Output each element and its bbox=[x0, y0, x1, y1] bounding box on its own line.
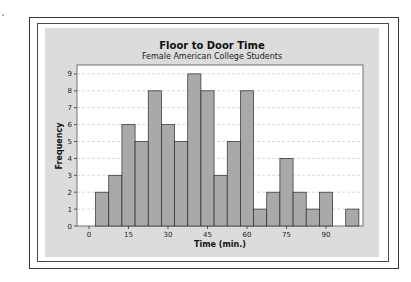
y-tick-label: 2 bbox=[68, 189, 72, 197]
x-tick-label: 45 bbox=[203, 231, 212, 239]
histogram-bar bbox=[161, 125, 174, 226]
histogram-bar bbox=[346, 209, 359, 226]
y-tick-label: 0 bbox=[68, 223, 72, 231]
y-axis-label: Frequency bbox=[55, 122, 64, 170]
x-axis-label: Time (min.) bbox=[194, 240, 246, 249]
x-tick-label: 15 bbox=[124, 231, 133, 239]
y-axis: 0123456789 bbox=[68, 70, 77, 230]
x-tick-label: 90 bbox=[322, 231, 331, 239]
histogram-bar bbox=[148, 91, 161, 226]
histogram-bar bbox=[293, 192, 306, 226]
histogram-bar bbox=[201, 91, 214, 226]
histogram-bar bbox=[188, 74, 201, 226]
histogram-bar bbox=[109, 175, 122, 226]
y-tick-label: 8 bbox=[68, 87, 72, 95]
histogram-bar bbox=[96, 192, 109, 226]
histogram: 0123456789 0153045607590 Time (min.) Fre… bbox=[0, 0, 411, 282]
histogram-bar bbox=[175, 142, 188, 227]
histogram-bar bbox=[319, 192, 332, 226]
x-tick-label: 30 bbox=[164, 231, 173, 239]
histogram-bar bbox=[306, 209, 319, 226]
x-axis: 0153045607590 bbox=[87, 226, 331, 239]
y-tick-label: 3 bbox=[68, 172, 72, 180]
x-tick-label: 0 bbox=[87, 231, 91, 239]
histogram-bar bbox=[267, 192, 280, 226]
y-tick-label: 5 bbox=[68, 138, 72, 146]
histogram-bar bbox=[227, 142, 240, 227]
histogram-bar bbox=[122, 125, 135, 226]
y-tick-label: 6 bbox=[68, 121, 73, 129]
y-tick-label: 1 bbox=[68, 206, 72, 214]
x-tick-label: 60 bbox=[243, 231, 252, 239]
y-tick-label: 4 bbox=[68, 155, 73, 163]
histogram-bar bbox=[135, 142, 148, 227]
y-tick-label: 7 bbox=[68, 104, 72, 112]
x-tick-label: 75 bbox=[282, 231, 291, 239]
y-tick-label: 9 bbox=[68, 70, 72, 78]
histogram-bar bbox=[280, 158, 293, 226]
histogram-bar bbox=[214, 175, 227, 226]
histogram-bar bbox=[240, 91, 253, 226]
histogram-bar bbox=[254, 209, 267, 226]
